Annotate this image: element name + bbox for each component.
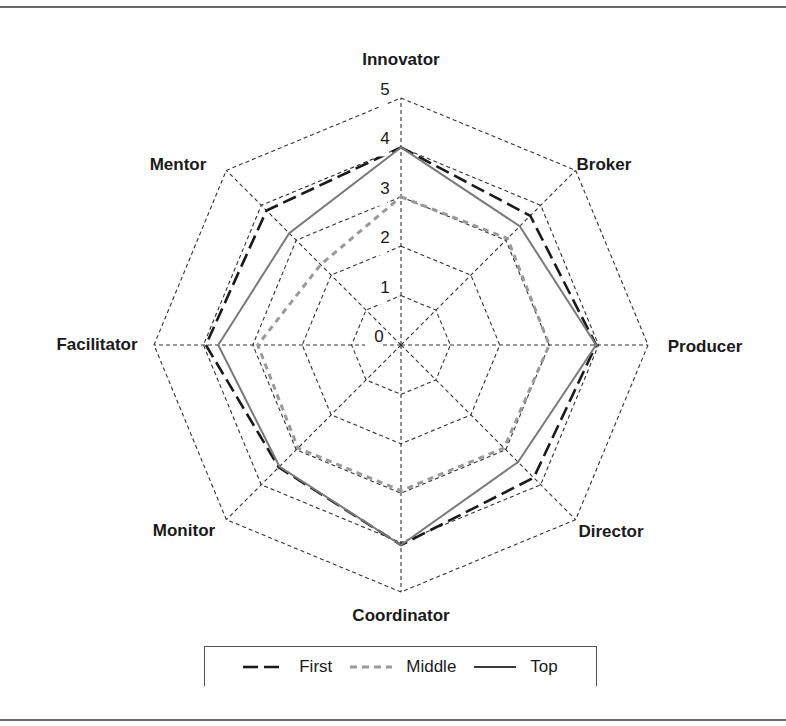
grid-spoke [226,345,401,520]
legend-item-middle: Middle [350,657,456,677]
axis-label-innovator: Innovator [362,50,440,69]
radial-tick-label: 2 [380,228,389,247]
radial-tick-label: 3 [380,179,389,198]
radar-chart: 012345 InnovatorBrokerProducerDirectorCo… [0,0,786,726]
legend-item-top: Top [474,657,557,677]
axis-label-producer: Producer [668,337,743,356]
grid-spoke [401,345,576,520]
radial-tick-label: 4 [380,129,389,148]
legend-swatch-top [474,664,516,670]
legend-item-first: First [243,657,332,677]
axis-label-director: Director [578,522,644,541]
grid-spoke [401,170,576,345]
radial-tick-label: 0 [374,327,383,346]
axis-label-mentor: Mentor [150,155,207,174]
axis-label-monitor: Monitor [153,521,216,540]
axis-label-facilitator: Facilitator [56,335,138,354]
axis-label-broker: Broker [577,155,632,174]
legend-label: Top [530,657,557,677]
axis-labels: InnovatorBrokerProducerDirectorCoordinat… [56,50,742,625]
radial-tick-label: 1 [380,278,389,297]
axis-label-coordinator: Coordinator [352,606,450,625]
legend: First Middle Top [204,646,597,686]
radial-tick-label: 5 [380,80,389,99]
legend-swatch-first [243,664,285,670]
legend-label: Middle [406,657,456,677]
legend-swatch-middle [350,664,392,670]
legend-label: First [299,657,332,677]
radar-grid [154,98,648,592]
